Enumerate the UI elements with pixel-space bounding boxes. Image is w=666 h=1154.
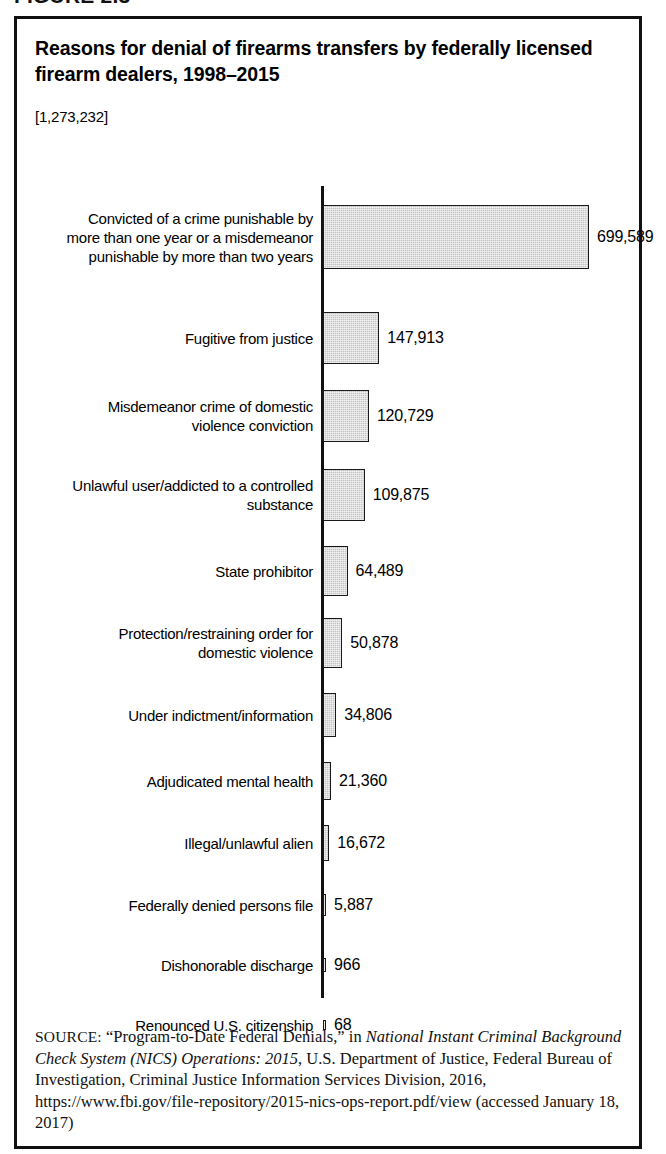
chart-bar-value: 16,672 — [337, 834, 385, 852]
chart-bar-track: 966 — [323, 958, 360, 972]
chart-bar-label: State prohibitor — [23, 562, 313, 581]
figure-inner: Reasons for denial of firearms transfers… — [17, 19, 639, 1146]
chart-bar-label: Convicted of a crime punishable by more … — [23, 209, 313, 266]
source-note: SOURCE: “Program-to-Date Federal Denials… — [35, 1026, 623, 1134]
chart-bar-track: 699,589 — [323, 205, 653, 269]
chart-bar-value: 5,887 — [334, 896, 373, 914]
chart-bar-row: Unlawful user/addicted to a controlled s… — [17, 455, 639, 535]
chart-bar-track: 5,887 — [323, 894, 373, 916]
chart-bar-value: 21,360 — [339, 772, 387, 790]
chart-bar-row: Convicted of a crime punishable by more … — [17, 197, 639, 277]
page-title: Reasons for denial of firearms transfers… — [35, 35, 595, 87]
figure-number: FIGURE 2.3 — [14, 0, 130, 8]
source-label: SOURCE: — [35, 1028, 102, 1045]
chart-bar-row: Fugitive from justice147,913 — [17, 298, 639, 378]
chart-bar-track: 16,672 — [323, 825, 385, 861]
chart-bar-row: State prohibitor64,489 — [17, 531, 639, 611]
chart-bar — [323, 693, 336, 737]
chart-bar-value: 966 — [334, 956, 360, 974]
chart-bar-value: 64,489 — [356, 562, 404, 580]
chart-bar-track: 21,360 — [323, 762, 387, 800]
chart-bar — [323, 958, 326, 972]
chart-bar-row: Protection/restraining order for domesti… — [17, 603, 639, 683]
chart-bar-label: Federally denied persons file — [23, 896, 313, 915]
chart-bar-label: Unlawful user/addicted to a controlled s… — [23, 476, 313, 514]
chart-bar-label: Protection/restraining order for domesti… — [23, 624, 313, 662]
chart-bar-value: 699,589 — [597, 228, 653, 246]
chart-bar — [323, 390, 369, 442]
chart-bar-value: 120,729 — [377, 407, 433, 425]
chart-bar-label: Illegal/unlawful alien — [23, 834, 313, 853]
chart-bar-track: 109,875 — [323, 469, 429, 521]
figure-box: Reasons for denial of firearms transfers… — [14, 16, 642, 1149]
chart-bar-label: Dishonorable discharge — [23, 956, 313, 975]
chart-bar-label: Adjudicated mental health — [23, 772, 313, 791]
chart-bar-track: 50,878 — [323, 618, 398, 668]
chart-subtitle-total: [1,273,232] — [35, 107, 621, 127]
chart-bar-value: 109,875 — [373, 486, 429, 504]
chart-bar-track: 147,913 — [323, 312, 444, 364]
chart-bar-label: Under indictment/information — [23, 706, 313, 725]
chart-bar — [323, 894, 326, 916]
chart-bar — [323, 762, 331, 800]
chart-bar — [323, 618, 342, 668]
chart-bar-value: 34,806 — [344, 706, 392, 724]
chart-bar-row: Misdemeanor crime of domestic violence c… — [17, 376, 639, 456]
source-text-part1: “Program-to-Date Federal Denials,” in — [102, 1027, 366, 1046]
chart-bar — [323, 825, 329, 861]
chart-bar — [323, 312, 379, 364]
chart-bar-track: 64,489 — [323, 546, 403, 596]
chart-bar-label: Fugitive from justice — [23, 329, 313, 348]
chart-bar — [323, 205, 589, 269]
chart-bar — [323, 469, 365, 521]
chart-bar-track: 34,806 — [323, 693, 392, 737]
chart-plot-area: Convicted of a crime punishable by more … — [17, 186, 639, 1014]
chart-bar-track: 120,729 — [323, 390, 433, 442]
chart-bar-value: 147,913 — [387, 329, 443, 347]
chart-bar-value: 50,878 — [350, 634, 398, 652]
chart-bar — [323, 546, 348, 596]
chart-bar-label: Misdemeanor crime of domestic violence c… — [23, 397, 313, 435]
